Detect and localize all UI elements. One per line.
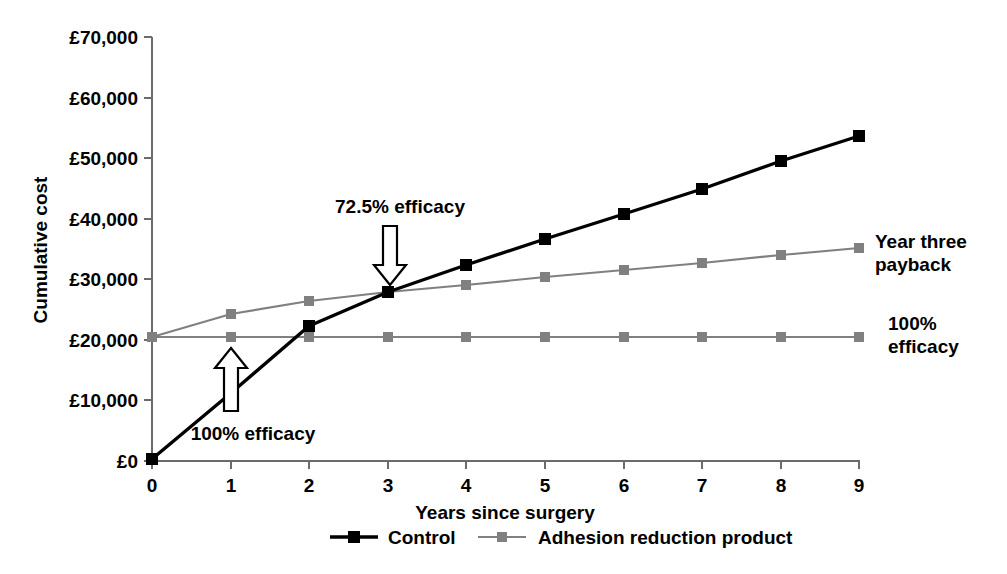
x-tick-label-2: 2: [304, 475, 315, 496]
y-tick-label-7: £70,000: [69, 27, 138, 48]
data-point-marker: [775, 155, 787, 167]
legend-swatch-control-marker: [348, 531, 360, 543]
x-tick-label-1: 1: [226, 475, 237, 496]
x-tick-label-3: 3: [383, 475, 394, 496]
data-point-marker: [382, 286, 394, 298]
x-axis-title: Years since surgery: [415, 502, 595, 523]
data-point-marker: [303, 320, 315, 332]
data-point-marker: [460, 259, 472, 271]
year-three-payback-line2: payback: [875, 254, 951, 275]
legend-swatch-product-marker: [497, 532, 507, 542]
data-point-marker: [776, 250, 786, 260]
y-tick-label-6: £60,000: [69, 88, 138, 109]
x-tick-label-8: 8: [776, 475, 787, 496]
data-point-marker: [618, 208, 630, 220]
data-point-marker: [383, 332, 393, 342]
right-efficacy-line2: efficacy: [888, 336, 959, 357]
data-point-marker: [697, 332, 707, 342]
y-tick-label-2: £20,000: [69, 330, 138, 351]
x-tick-label-7: 7: [697, 475, 708, 496]
annotation-efficacy-100-label: 100% efficacy: [191, 423, 316, 444]
data-point-marker: [540, 272, 550, 282]
y-tick-label-4: £40,000: [69, 209, 138, 230]
data-point-marker: [461, 332, 471, 342]
y-axis-title: Cumulative cost: [30, 176, 51, 323]
data-point-marker: [540, 332, 550, 342]
chart-container: £0 £10,000 £20,000 £30,000 £40,000 £50,0…: [0, 0, 1007, 574]
data-point-marker: [539, 233, 551, 245]
cumulative-cost-line-chart: £0 £10,000 £20,000 £30,000 £40,000 £50,0…: [0, 0, 1007, 574]
x-tick-label-5: 5: [540, 475, 551, 496]
chart-legend: Control Adhesion reduction product: [330, 527, 793, 548]
data-point-marker: [304, 332, 314, 342]
data-point-marker: [146, 453, 158, 465]
x-tick-label-6: 6: [619, 475, 630, 496]
x-tick-label-4: 4: [461, 475, 472, 496]
annotation-efficacy-725-label: 72.5% efficacy: [335, 196, 465, 217]
y-tick-label-0: £0: [117, 451, 138, 472]
data-point-marker: [147, 332, 157, 342]
data-point-marker: [854, 332, 864, 342]
data-point-marker: [697, 258, 707, 268]
data-point-marker: [619, 332, 629, 342]
data-point-marker: [776, 332, 786, 342]
x-tick-label-0: 0: [147, 475, 158, 496]
data-point-marker: [461, 280, 471, 290]
year-three-payback-line1: Year three: [875, 231, 967, 252]
data-point-marker: [696, 183, 708, 195]
data-point-marker: [226, 309, 236, 319]
y-tick-label-5: £50,000: [69, 148, 138, 169]
data-point-marker: [304, 296, 314, 306]
data-point-marker: [226, 332, 236, 342]
x-tick-label-9: 9: [854, 475, 865, 496]
data-point-marker: [619, 265, 629, 275]
legend-label-product: Adhesion reduction product: [538, 527, 793, 548]
right-efficacy-line1: 100%: [888, 313, 937, 334]
y-tick-label-1: £10,000: [69, 390, 138, 411]
data-point-marker: [854, 243, 864, 253]
data-point-marker: [853, 130, 865, 142]
legend-label-control: Control: [388, 527, 456, 548]
y-tick-label-3: £30,000: [69, 269, 138, 290]
